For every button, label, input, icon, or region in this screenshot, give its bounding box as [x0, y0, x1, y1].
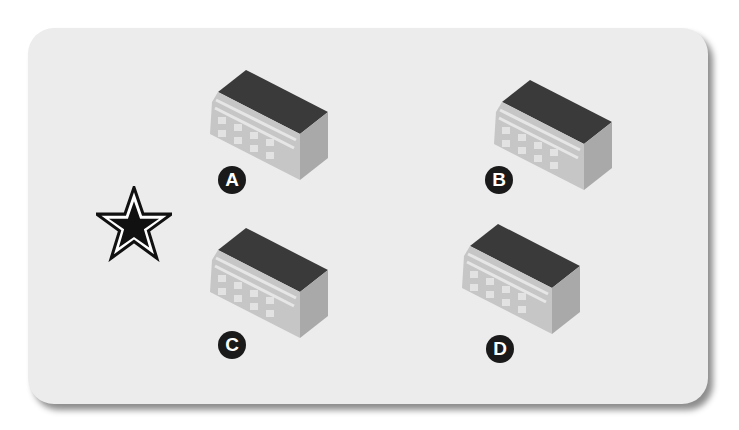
building-icon: [200, 62, 330, 182]
star-icon: [96, 186, 172, 262]
option-label: D: [486, 335, 514, 363]
building-icon: [452, 216, 582, 336]
option-label: B: [485, 166, 513, 194]
option-label: A: [218, 166, 246, 194]
building-icon: [200, 220, 330, 340]
option-label: C: [218, 331, 246, 359]
